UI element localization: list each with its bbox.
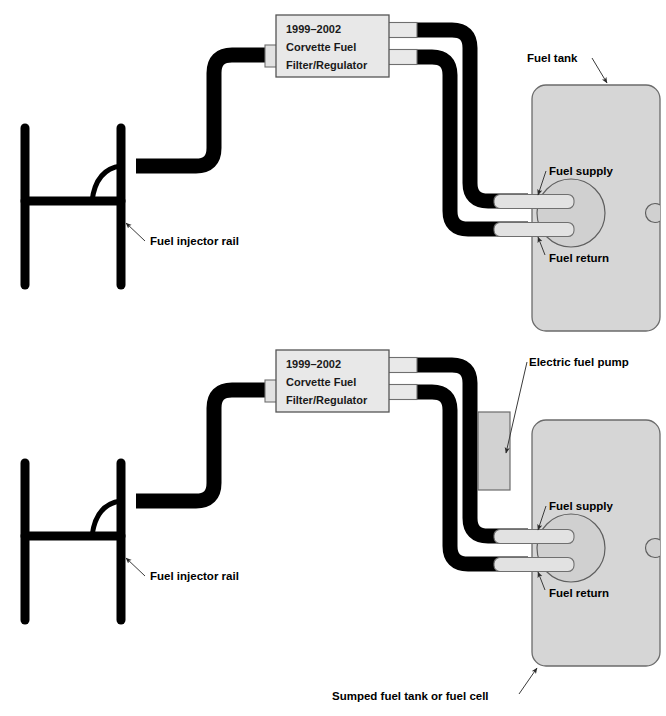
label-sumped-fuel-tank: Sumped fuel tank or fuel cell (332, 690, 489, 702)
diagram-bottom: 1999–2002 Corvette Fuel Filter/Regulator… (25, 350, 665, 702)
regulator-label-line1: 1999–2002 (286, 23, 341, 35)
electric-fuel-pump (478, 412, 510, 490)
label-fuel-supply-bottom: Fuel supply (549, 500, 614, 512)
leader-fuel-injector-rail-bottom (126, 558, 145, 576)
hose-rail-feed-bottom (136, 390, 268, 501)
leader-fuel-injector-rail-top (126, 223, 145, 241)
fuel-system-canvas: 1999–2002 Corvette Fuel Filter/Regulator… (0, 0, 666, 716)
label-fuel-supply-top: Fuel supply (549, 165, 614, 177)
label-fuel-injector-rail-bottom: Fuel injector rail (150, 570, 239, 582)
regulator-label-line2: Corvette Fuel (286, 41, 356, 53)
fuel-system-diagram: 1999–2002 Corvette Fuel Filter/Regulator… (0, 0, 666, 716)
regulator-label-bottom-line1: 1999–2002 (286, 358, 341, 370)
label-fuel-tank-top: Fuel tank (527, 52, 578, 64)
label-fuel-injector-rail-top: Fuel injector rail (150, 235, 239, 247)
label-electric-fuel-pump: Electric fuel pump (529, 356, 629, 368)
hose-rail-feed-top (136, 55, 268, 166)
label-fuel-return-bottom: Fuel return (549, 587, 609, 599)
fuel-injector-rail-top (25, 128, 121, 285)
regulator-label-bottom-line2: Corvette Fuel (286, 376, 356, 388)
label-fuel-return-top: Fuel return (549, 252, 609, 264)
diagram-top: 1999–2002 Corvette Fuel Filter/Regulator… (25, 15, 665, 331)
regulator-label-bottom-line3: Filter/Regulator (286, 394, 368, 406)
regulator-label-line3: Filter/Regulator (286, 59, 368, 71)
fuel-injector-rail-bottom (25, 463, 121, 620)
leader-fuel-tank-top (592, 58, 607, 83)
leader-electric-fuel-pump (506, 362, 527, 453)
leader-sumped-fuel-tank (519, 668, 537, 694)
